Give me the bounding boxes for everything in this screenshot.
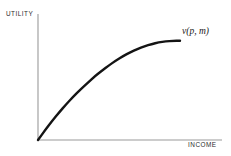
utility-curve [38,41,180,140]
curve-label: v(p, m) [182,27,209,37]
plot-area [0,0,231,156]
y-axis-label: UTILITY [6,11,33,17]
x-axis-label: INCOME [188,142,217,148]
utility-income-figure: UTILITY INCOME v(p, m) [0,0,231,156]
